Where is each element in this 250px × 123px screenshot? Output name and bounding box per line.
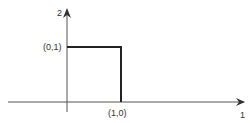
diagram-canvas: [0, 0, 250, 123]
y-axis-label: 2: [57, 8, 62, 18]
x-axis-label: 1: [240, 110, 245, 120]
point-label-0-1: (0,1): [43, 42, 62, 52]
point-label-1-0: (1,0): [108, 108, 127, 118]
pulse-diagram: 2 1 (0,1) (1,0): [0, 0, 250, 123]
pulse-outline: [67, 47, 121, 102]
